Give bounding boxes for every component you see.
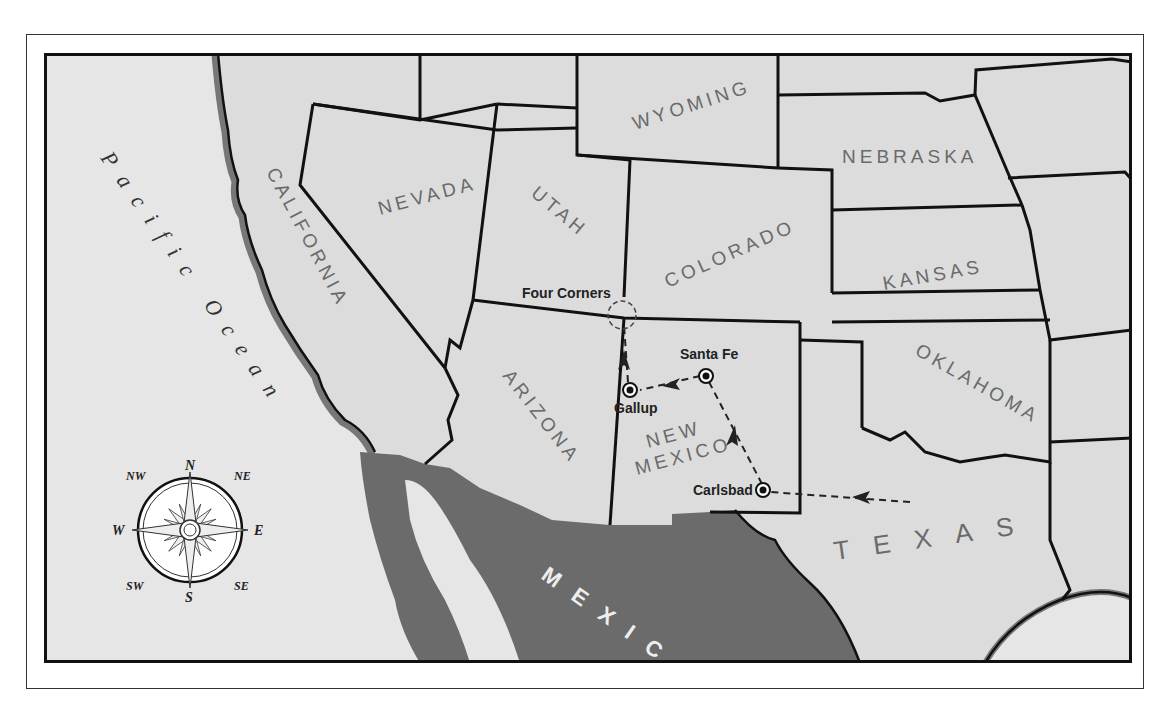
compass-se: SE	[234, 579, 249, 593]
compass-s: S	[185, 590, 193, 605]
map: CALIFORNIA NEVADA UTAH WYOMING COLORADO …	[44, 53, 1132, 663]
label-nebraska: NEBRASKA	[842, 146, 977, 167]
compass-sw: SW	[126, 579, 145, 593]
label-four-corners: Four Corners	[522, 285, 611, 301]
compass-e: E	[253, 523, 263, 538]
compass-ne: NE	[233, 469, 251, 483]
label-carlsbad: Carlsbad	[693, 482, 753, 498]
compass-w: W	[112, 523, 126, 538]
compass-nw: NW	[125, 469, 147, 483]
compass-n: N	[184, 458, 196, 473]
label-gallup: Gallup	[614, 400, 658, 416]
label-santa-fe: Santa Fe	[680, 346, 739, 362]
city-carlsbad: Carlsbad	[693, 482, 770, 498]
